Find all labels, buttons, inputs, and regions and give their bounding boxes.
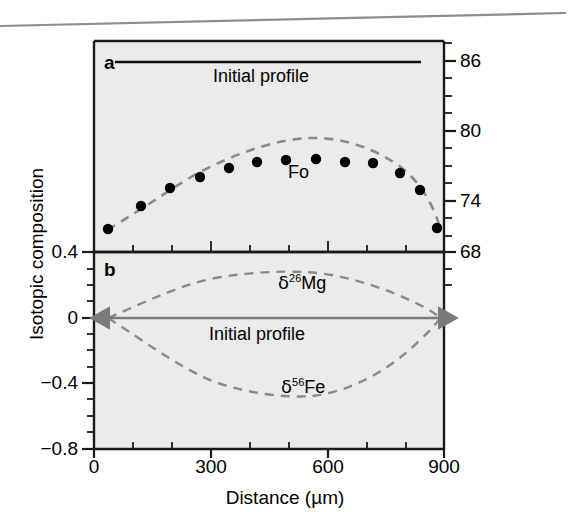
x-axis-title: Distance (µm) [0,487,570,509]
y-right-tick-68: 68 [460,241,481,263]
mass-number-56: 56 [292,376,304,388]
x-tick-600: 600 [298,456,358,478]
data-point [252,157,262,167]
y-axis-title: Isotopic composition [26,139,48,369]
data-point [224,163,234,173]
panel-a-series-label: Fo [288,162,309,183]
panel-b-x-major-ticks [94,449,444,458]
panel-b-initial-profile-label: Initial profile [209,324,305,345]
panel-b-background [94,252,444,449]
y-left-tick--0.8: −0.8 [8,438,78,460]
panel-b-letter: b [104,259,116,281]
data-point [195,172,205,182]
data-point [340,157,350,167]
delta-symbol-mg: δ [278,272,289,293]
data-point [415,185,425,195]
element-mg: Mg [301,273,326,293]
panel-b-mg-label: δ26Mg [278,272,326,294]
x-tick-300: 300 [181,456,241,478]
panel-b-right-ticks [444,269,452,285]
data-point [368,158,378,168]
panel-a-right-minor-ticks [444,43,452,236]
panel-b-fe-label: δ56Fe [281,376,325,398]
data-point [311,154,321,164]
mass-number-26: 26 [289,272,301,284]
data-point [136,201,146,211]
data-point [103,224,113,234]
data-point [432,223,442,233]
data-point [165,183,175,193]
x-tick-0: 0 [74,456,114,478]
y-left-tick--0.4: −0.4 [8,372,78,394]
data-point [395,168,405,178]
panel-a-letter: a [104,52,115,74]
panel-a-initial-profile-label: Initial profile [213,66,309,87]
x-tick-900: 900 [414,456,474,478]
y-right-tick-74: 74 [460,190,481,212]
delta-symbol-fe: δ [281,376,292,397]
element-fe: Fe [304,377,325,397]
y-right-tick-80: 80 [460,120,481,142]
figure-root: a b Initial profile Fo δ26Mg Initial pro… [0,0,570,527]
y-right-tick-86: 86 [460,50,481,72]
panel-a-right-major-ticks [444,61,456,252]
